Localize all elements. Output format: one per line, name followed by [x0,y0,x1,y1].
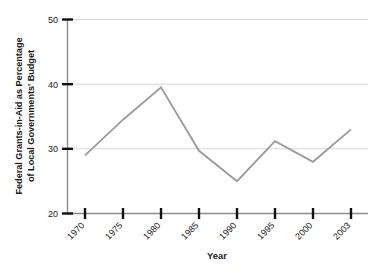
y-tick-label-40: 40 [48,80,58,90]
x-tick-label-2000: 2000 [293,220,314,241]
y-axis-title-line2: of Local Governments' Budget [26,50,36,182]
y-axis-title: Federal Grants-in-Aid as Percentage of L… [14,37,36,194]
y-tick-label-20: 20 [48,209,58,219]
x-tick-label-1980: 1980 [141,220,162,241]
x-tick-label-1970: 1970 [65,220,86,241]
x-tick-label-1975: 1975 [103,220,124,241]
x-tick-label-2003: 2003 [331,220,352,241]
x-tick-label-1990: 1990 [217,220,238,241]
chart-container: 50 40 30 20 1970 1975 1980 1985 1990 199… [0,0,391,272]
x-axis-title: Year [207,250,227,261]
x-tick-label-1995: 1995 [255,220,276,241]
line-chart: 50 40 30 20 1970 1975 1980 1985 1990 199… [0,0,391,272]
y-tick-labels: 50 40 30 20 [48,15,58,219]
plot-background [67,19,368,213]
x-tick-labels: 1970 1975 1980 1985 1990 1995 2000 2003 [65,220,352,241]
y-tick-label-30: 30 [48,144,58,154]
x-tick-label-1985: 1985 [179,220,200,241]
y-axis-title-line1: Federal Grants-in-Aid as Percentage [14,37,24,194]
y-tick-label-50: 50 [48,15,58,25]
